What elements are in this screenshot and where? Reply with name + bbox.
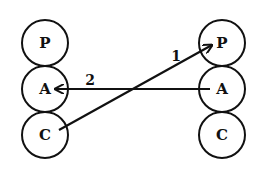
arrow-1: 1 [59,45,212,130]
arrow-label: 2 [85,72,95,88]
node-label: P [39,34,50,52]
right-node-c: C [199,112,245,158]
node-label: P [216,34,227,52]
node-label: C [39,126,51,144]
left-node-c: C [22,112,68,158]
right-node-p: P [199,20,245,66]
node-label: A [215,80,228,98]
node-label: C [216,126,228,144]
arrow-2: 2 [55,72,210,89]
left-node-p: P [22,20,68,66]
arrow-label: 1 [171,48,181,64]
node-label: A [38,80,51,98]
arrow-right-icon [59,45,212,130]
diagram-canvas: P A C P A C 1 2 [0,0,265,172]
